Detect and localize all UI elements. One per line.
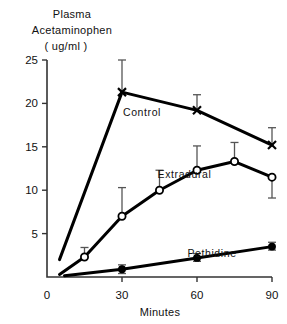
marker-extradural-75 (231, 158, 238, 165)
chart-canvas: Plasma Acetaminophen ( ug/ml ) 252015105… (0, 0, 287, 324)
series-label-control: Control (123, 106, 161, 118)
marker-pethidine-90 (269, 243, 275, 249)
marker-pethidine-30 (119, 266, 125, 272)
series-label-pethidine: Pethidine (187, 247, 236, 259)
y-tick-label-20: 20 (25, 97, 38, 109)
y-tick-label-10: 10 (25, 184, 38, 196)
y-tick-labels: 252015105 (25, 54, 38, 240)
series-label-extradural: Extradural (158, 168, 212, 180)
series-labels: ControlExtraduralPethidine (123, 106, 237, 259)
x-tick-labels: 0306090 (44, 289, 279, 301)
series-line-pethidine (65, 247, 273, 276)
marker-extradural-30 (118, 213, 125, 220)
marker-extradural-45 (156, 187, 163, 194)
marker-extradural-90 (268, 174, 275, 181)
x-axis-title: Minutes (140, 306, 181, 318)
x-tick-label-60: 60 (191, 289, 204, 301)
y-tick-label-15: 15 (25, 141, 38, 153)
series-lines (60, 92, 273, 276)
y-axis-title: Plasma Acetaminophen ( ug/ml ) (32, 8, 112, 52)
marker-extradural-15 (81, 253, 88, 260)
y-axis-title-line-1: Plasma (53, 8, 92, 20)
acetaminophen-plasma-chart: Plasma Acetaminophen ( ug/ml ) 252015105… (0, 0, 287, 324)
x-tick-label-90: 90 (266, 289, 279, 301)
x-tick-label-0: 0 (44, 289, 50, 301)
y-axis-title-line-3: ( ug/ml ) (44, 40, 87, 52)
x-tick-label-30: 30 (116, 289, 129, 301)
y-tick-label-25: 25 (25, 54, 38, 66)
y-tick-label-5: 5 (32, 228, 38, 240)
y-axis-title-line-2: Acetaminophen (32, 24, 112, 36)
